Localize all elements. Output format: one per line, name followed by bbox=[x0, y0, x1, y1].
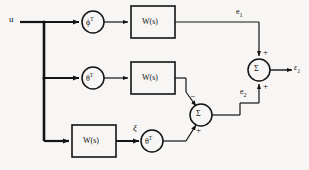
label-phi-transpose: ϕT bbox=[86, 17, 94, 27]
bus-node-mid bbox=[43, 77, 46, 80]
wire-theta-bot-to-sum-inner bbox=[186, 125, 196, 141]
label-sigma-inner: Σ bbox=[196, 110, 201, 118]
label-epsilon1-output: ε1 bbox=[294, 64, 300, 74]
label-w-top: W(s) bbox=[142, 18, 158, 26]
sign-sum-outer-bottom: + bbox=[263, 82, 268, 91]
label-theta-transpose-bottom: θT bbox=[145, 136, 152, 146]
diagram-canvas: u ϕT θT θT Σ Σ W(s) W(s) W(s) e1 e2 ξ ε1… bbox=[0, 0, 309, 170]
bus-node-top bbox=[43, 21, 46, 24]
label-theta-transpose-mid: θT bbox=[86, 73, 93, 83]
sign-sum-outer-top: + bbox=[263, 48, 268, 57]
label-sigma-outer: Σ bbox=[254, 65, 259, 73]
label-xi: ξ bbox=[133, 124, 137, 133]
label-e2: e2 bbox=[240, 88, 247, 98]
label-w-bottom: W(s) bbox=[83, 137, 99, 145]
sign-sum-inner-top: − bbox=[190, 92, 195, 101]
label-e1: e1 bbox=[236, 8, 243, 18]
circle-summing-junction-outer bbox=[248, 59, 270, 81]
label-w-mid: W(s) bbox=[142, 74, 158, 82]
sign-sum-inner-bottom: + bbox=[196, 126, 201, 135]
label-input-u: u bbox=[9, 15, 14, 24]
circle-summing-junction-inner bbox=[190, 104, 212, 126]
